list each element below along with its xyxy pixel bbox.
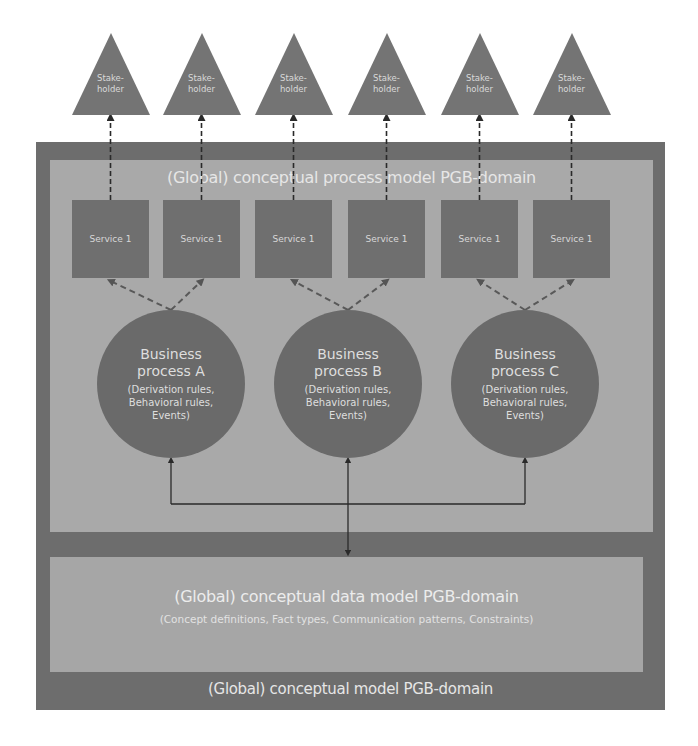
- stakeholder-triangle: Stake-holder: [441, 33, 519, 115]
- service-dependency-arrow: [111, 281, 172, 310]
- service-dependency-arrow: [348, 281, 387, 310]
- service-dependency-arrow: [171, 281, 202, 310]
- stakeholder-label: Stake-holder: [264, 73, 324, 95]
- service-label: Service 1: [551, 234, 593, 244]
- stakeholder-triangle: Stake-holder: [72, 33, 150, 115]
- service-label: Service 1: [366, 234, 408, 244]
- stakeholder-label-line2: holder: [172, 84, 232, 95]
- process-title-line1: Business: [140, 346, 202, 363]
- stakeholder-label-line1: Stake-: [264, 73, 324, 84]
- service-dependency-arrow: [480, 281, 526, 310]
- stakeholder-label: Stake-holder: [172, 73, 232, 95]
- service-box: Service 1: [533, 200, 610, 278]
- process-detail-line: Behavioral rules,: [482, 396, 569, 409]
- process-detail-line: Events): [128, 409, 215, 422]
- stakeholder-label-line2: holder: [264, 84, 324, 95]
- stakeholder-triangle: Stake-holder: [533, 33, 611, 115]
- stakeholder-triangle: Stake-holder: [163, 33, 241, 115]
- process-detail-line: (Derivation rules,: [305, 383, 392, 396]
- stakeholder-label: Stake-holder: [542, 73, 602, 95]
- stakeholder-label-line1: Stake-: [172, 73, 232, 84]
- stakeholder-label-line1: Stake-: [81, 73, 141, 84]
- service-box: Service 1: [72, 200, 149, 278]
- service-dependency-arrow: [294, 281, 349, 310]
- stakeholder-label-line2: holder: [450, 84, 510, 95]
- process-details: (Derivation rules,Behavioral rules,Event…: [482, 383, 569, 422]
- process-detail-line: Behavioral rules,: [305, 396, 392, 409]
- process-detail-line: (Derivation rules,: [128, 383, 215, 396]
- stakeholder-label-line1: Stake-: [357, 73, 417, 84]
- stakeholder-label-line1: Stake-: [450, 73, 510, 84]
- stakeholder-label-line2: holder: [357, 84, 417, 95]
- process-details: (Derivation rules,Behavioral rules,Event…: [305, 383, 392, 422]
- stakeholder-label-line2: holder: [542, 84, 602, 95]
- service-box: Service 1: [163, 200, 240, 278]
- service-box: Service 1: [255, 200, 332, 278]
- process-detail-line: Events): [482, 409, 569, 422]
- business-process-circle: Businessprocess C(Derivation rules,Behav…: [451, 310, 599, 458]
- process-detail-line: Behavioral rules,: [128, 396, 215, 409]
- service-label: Service 1: [273, 234, 315, 244]
- process-title-line1: Business: [317, 346, 379, 363]
- service-dependency-arrow: [525, 281, 572, 310]
- business-process-circle: Businessprocess B(Derivation rules,Behav…: [274, 310, 422, 458]
- service-box: Service 1: [441, 200, 518, 278]
- process-title-line1: Business: [494, 346, 556, 363]
- stakeholder-label-line1: Stake-: [542, 73, 602, 84]
- stakeholder-triangle: Stake-holder: [348, 33, 426, 115]
- process-title-line2: process B: [314, 363, 382, 380]
- process-detail-line: (Derivation rules,: [482, 383, 569, 396]
- service-label: Service 1: [90, 234, 132, 244]
- stakeholder-label-line2: holder: [81, 84, 141, 95]
- service-box: Service 1: [348, 200, 425, 278]
- business-process-circle: Businessprocess A(Derivation rules,Behav…: [97, 310, 245, 458]
- process-title-line2: process A: [137, 363, 205, 380]
- stakeholder-label: Stake-holder: [81, 73, 141, 95]
- process-detail-line: Events): [305, 409, 392, 422]
- process-details: (Derivation rules,Behavioral rules,Event…: [128, 383, 215, 422]
- stakeholder-label: Stake-holder: [450, 73, 510, 95]
- stakeholder-triangle: Stake-holder: [255, 33, 333, 115]
- stakeholder-label: Stake-holder: [357, 73, 417, 95]
- service-label: Service 1: [181, 234, 223, 244]
- service-label: Service 1: [459, 234, 501, 244]
- process-title-line2: process C: [491, 363, 559, 380]
